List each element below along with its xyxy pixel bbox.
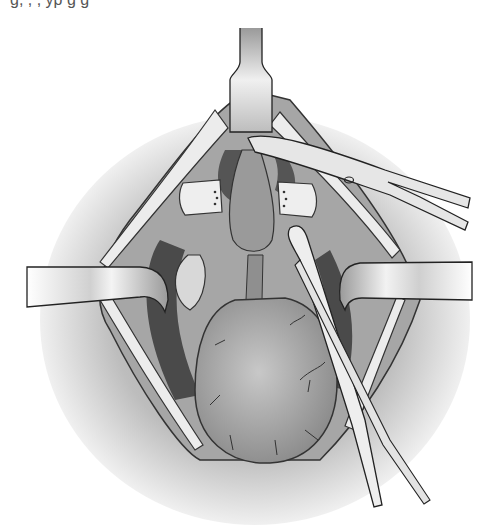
surgical-illustration [0,0,499,531]
pad-dot [285,198,288,201]
pad-dot [283,191,286,194]
organ-duct [246,255,263,300]
pad-dot [214,203,217,206]
retractor-blade-top[interactable] [230,28,272,132]
pad-dot [283,205,286,208]
tissue-pad-left [179,180,222,215]
tissue-pad-right [278,182,317,217]
pad-dot [216,197,219,200]
pad-dot [214,191,217,194]
